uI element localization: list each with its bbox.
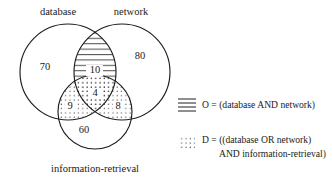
region-value-network-and-ir: 8: [115, 100, 120, 111]
region-value-database-and-ir: 9: [67, 100, 72, 111]
legend-text-O-line-1: O = (database AND network): [202, 99, 315, 111]
legend-text-D-line-2: AND information-retrieval): [219, 148, 326, 160]
region-value-database-and-network: 10: [90, 64, 101, 75]
legend-text-D-line-1: D = ((database OR network): [202, 134, 311, 146]
venn-diagram-svg: database network information-retrieval 7…: [0, 0, 333, 179]
venn-diagram-figure: database network information-retrieval 7…: [0, 0, 333, 179]
region-value-ir-only: 60: [79, 124, 90, 135]
set-label-database: database: [40, 6, 76, 17]
legend-entry-D: D = ((database OR network) AND informati…: [178, 134, 326, 160]
horizontal-lines-swatch: [178, 99, 196, 111]
set-label-network: network: [114, 6, 149, 17]
region-value-network-only: 80: [135, 50, 146, 61]
dotted-swatch: [178, 136, 195, 149]
set-label-information-retrieval: information-retrieval: [51, 163, 139, 174]
region-value-database-only: 70: [40, 61, 51, 72]
region-value-all-three: 4: [92, 87, 98, 98]
legend-entry-O: O = (database AND network): [178, 99, 315, 111]
